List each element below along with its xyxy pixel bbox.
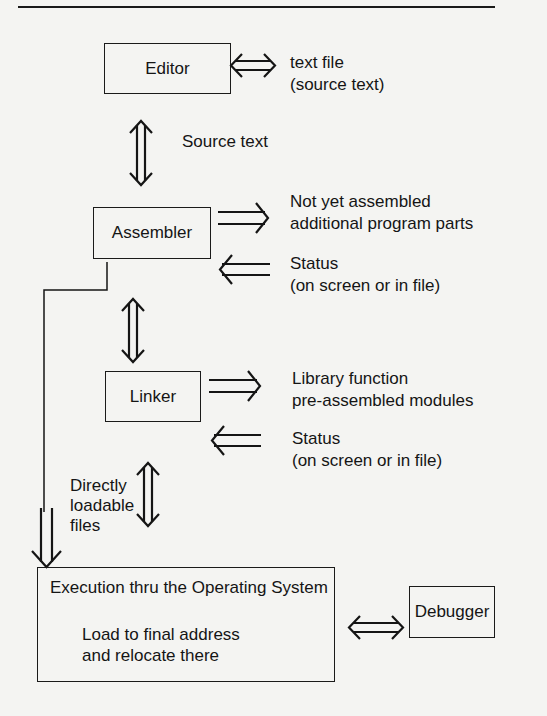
assembler-out-label-2: additional program parts — [290, 213, 473, 234]
direct-load-line — [44, 262, 107, 512]
linker-status-label-2: (on screen or in file) — [292, 450, 442, 471]
debugger-node: Debugger — [409, 586, 495, 638]
execution-line-1: Load to final address — [82, 624, 240, 645]
source-text-label: Source text — [182, 131, 268, 152]
assembler-node: Assembler — [93, 207, 211, 259]
directly-loadable-label-1: Directly — [70, 476, 127, 496]
assembler-out-arrow-icon — [218, 203, 268, 233]
directly-loadable-label-3: files — [70, 516, 100, 536]
execution-debugger-arrow-icon — [349, 616, 403, 639]
linker-execution-arrow-icon — [137, 463, 159, 526]
assembler-status-label-2: (on screen or in file) — [290, 275, 440, 296]
text-file-label: text file — [290, 52, 344, 73]
execution-node: Execution thru the Operating System Load… — [37, 567, 335, 682]
directly-loadable-label-2: loadable — [70, 496, 134, 516]
linker-in-label-1: Library function — [292, 368, 408, 389]
debugger-label: Debugger — [415, 602, 490, 622]
source-text-file-label: (source text) — [290, 74, 384, 95]
linker-status-arrow-icon — [212, 426, 261, 455]
assembler-linker-arrow-icon — [122, 299, 144, 362]
editor-textfile-arrow-icon — [231, 54, 275, 77]
assembler-status-label-1: Status — [290, 253, 338, 274]
linker-node: Linker — [105, 371, 201, 422]
assembler-status-arrow-icon — [220, 255, 270, 284]
assembler-label: Assembler — [112, 223, 192, 243]
editor-node: Editor — [104, 43, 231, 94]
linker-out-arrow-icon — [209, 371, 260, 401]
direct-load-down-arrow-icon — [32, 508, 61, 567]
editor-label: Editor — [145, 59, 189, 79]
execution-title: Execution thru the Operating System — [50, 578, 328, 598]
assembler-out-label-1: Not yet assembled — [290, 191, 431, 212]
linker-status-label-1: Status — [292, 428, 340, 449]
editor-assembler-arrow-icon — [130, 121, 152, 185]
linker-in-label-2: pre-assembled modules — [292, 390, 473, 411]
linker-label: Linker — [130, 387, 176, 407]
execution-line-2: and relocate there — [82, 645, 219, 666]
